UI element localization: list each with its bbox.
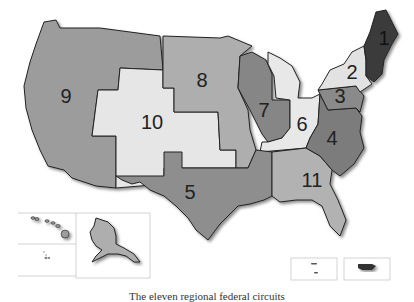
circuit-8-label: 8 — [196, 69, 207, 91]
puerto-rico-shape[interactable] — [358, 264, 376, 270]
circuit-3-label: 3 — [334, 85, 345, 107]
inset-hawaii-alaska — [18, 213, 150, 278]
map-caption: The eleven regional federal circuits — [0, 290, 414, 302]
alaska-shape[interactable] — [90, 218, 140, 262]
virgin-islands-shape[interactable] — [311, 263, 318, 274]
circuit-11-label: 11 — [302, 169, 323, 191]
circuit-7-label: 7 — [258, 99, 269, 121]
northern-mariana-shape[interactable] — [44, 257, 47, 260]
circuit-10-label: 10 — [141, 111, 163, 133]
circuit-1-label: 1 — [378, 27, 389, 49]
hawaii-shape[interactable] — [31, 217, 69, 238]
circuit-9-label: 9 — [60, 85, 71, 107]
inset-caribbean — [291, 258, 390, 280]
circuit-6-label: 6 — [296, 113, 307, 135]
circuit-4-label: 4 — [326, 127, 337, 149]
circuit-2-label: 2 — [346, 61, 357, 83]
circuit-map: 1 2 3 4 5 6 7 8 9 10 11 — [0, 0, 414, 302]
circuit-5-label: 5 — [184, 181, 195, 203]
